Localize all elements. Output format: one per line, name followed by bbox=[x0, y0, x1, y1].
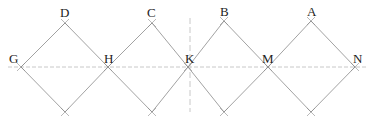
squares-figure: GDHCKBMAN bbox=[0, 0, 371, 129]
point-label-c: C bbox=[147, 5, 156, 20]
point-label-d: D bbox=[60, 5, 69, 20]
point-label-a: A bbox=[307, 4, 317, 19]
point-label-b: B bbox=[220, 4, 229, 19]
point-label-g: G bbox=[9, 51, 18, 66]
point-label-n: N bbox=[353, 51, 363, 66]
point-label-m: M bbox=[262, 51, 274, 66]
point-label-k: K bbox=[185, 51, 195, 66]
geometry-diagram: GDHCKBMAN bbox=[0, 0, 371, 129]
point-label-h: H bbox=[104, 51, 113, 66]
